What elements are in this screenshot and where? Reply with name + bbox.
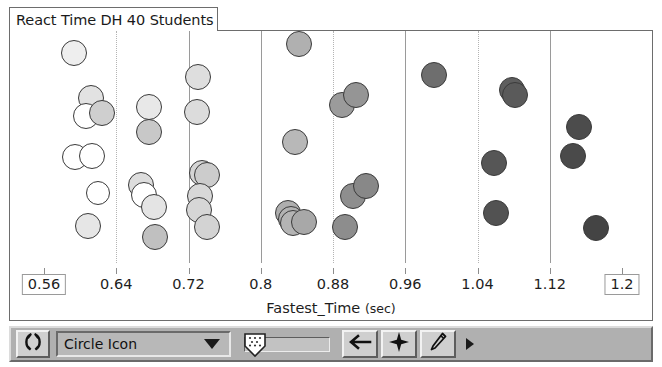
x-axis-min-field[interactable]: 0.56 — [22, 274, 66, 295]
data-point[interactable] — [185, 64, 211, 90]
data-point[interactable] — [291, 209, 317, 235]
gridline — [261, 31, 262, 263]
back-arrow-button[interactable] — [342, 330, 378, 358]
x-axis-tick — [189, 268, 190, 274]
data-point[interactable] — [86, 181, 110, 205]
tool-button-group — [342, 330, 456, 358]
app-window: React Time DH 40 Students 0.560.640.720.… — [0, 0, 662, 367]
x-axis-tick-label: 0.8 — [249, 276, 272, 292]
x-axis-tick-label: 0.64 — [100, 276, 132, 292]
data-point[interactable] — [79, 143, 105, 169]
four-point-star-icon — [389, 332, 409, 356]
x-axis-tick-labels: 0.560.640.720.80.880.961.041.121.2 — [0, 276, 662, 298]
bottom-toolbar: Circle Icon — [9, 326, 653, 362]
page-title: React Time DH 40 Students — [16, 12, 213, 28]
chevron-down-icon[interactable] — [204, 339, 220, 349]
data-point[interactable] — [142, 224, 168, 250]
pencil-tool-button[interactable] — [420, 330, 456, 358]
x-axis-tick — [405, 268, 406, 274]
pencil-icon — [429, 332, 447, 356]
x-axis-tick-label: 0.88 — [317, 276, 349, 292]
data-point[interactable] — [502, 82, 528, 108]
x-axis-title: Fastest_Time (sec) — [0, 300, 662, 316]
x-axis-ticks — [0, 268, 662, 276]
x-axis-tick — [478, 268, 479, 274]
x-axis-tick-label: 0.96 — [389, 276, 421, 292]
data-point[interactable] — [566, 114, 592, 140]
marker-style-value: Circle Icon — [58, 336, 137, 352]
gridline — [116, 31, 118, 263]
x-axis-tick — [333, 268, 334, 274]
data-point[interactable] — [184, 99, 210, 125]
data-point[interactable] — [61, 40, 87, 66]
x-axis-tick-label: 1.12 — [534, 276, 566, 292]
data-point[interactable] — [483, 200, 509, 226]
data-point[interactable] — [89, 100, 115, 126]
data-point[interactable] — [332, 214, 358, 240]
data-point[interactable] — [583, 215, 609, 241]
rotate-button[interactable] — [16, 330, 50, 358]
marker-style-dropdown[interactable]: Circle Icon — [56, 331, 231, 357]
more-tools-arrow-icon[interactable] — [466, 338, 474, 350]
x-axis-tick-label: 0.72 — [172, 276, 204, 292]
x-axis-tick — [550, 268, 551, 274]
scatter-plot-area[interactable] — [10, 31, 652, 263]
data-point[interactable] — [194, 214, 220, 240]
data-point[interactable] — [136, 119, 162, 145]
arrow-left-icon — [348, 334, 372, 354]
window-title-tab[interactable]: React Time DH 40 Students — [9, 7, 218, 31]
x-axis-tick — [261, 268, 262, 274]
slider-thumb-icon[interactable] — [243, 332, 267, 358]
gridline — [550, 31, 551, 263]
x-axis-unit: (sec) — [365, 301, 396, 316]
gridline — [478, 31, 480, 263]
data-point[interactable] — [136, 94, 162, 120]
rotate-icon — [22, 332, 44, 356]
data-point[interactable] — [75, 213, 101, 239]
data-point[interactable] — [421, 62, 447, 88]
x-axis-tick-label: 1.04 — [461, 276, 493, 292]
data-point[interactable] — [353, 173, 379, 199]
move-tool-button[interactable] — [381, 330, 417, 358]
data-point[interactable] — [286, 31, 312, 57]
x-axis-tick — [116, 268, 117, 274]
data-point[interactable] — [343, 82, 369, 108]
gridline — [405, 31, 406, 263]
x-axis-title-text: Fastest_Time — [266, 300, 360, 316]
data-point[interactable] — [282, 129, 308, 155]
size-slider[interactable] — [244, 337, 330, 352]
x-axis-max-field[interactable]: 1.2 — [604, 274, 639, 295]
data-point[interactable] — [141, 194, 167, 220]
data-point[interactable] — [481, 150, 507, 176]
data-point[interactable] — [560, 143, 586, 169]
